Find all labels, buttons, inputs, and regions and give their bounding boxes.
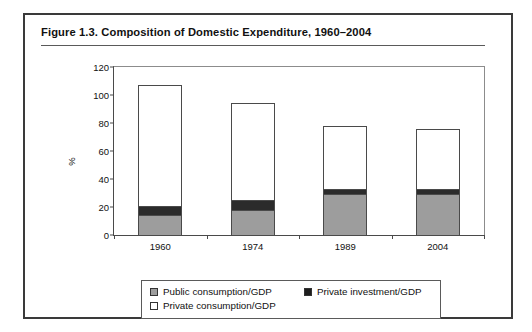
bar-segment: [138, 215, 182, 235]
y-tick-mark: [110, 67, 114, 68]
legend-item-private-investment[interactable]: Private investment/GDP: [304, 285, 422, 299]
y-tick-mark: [110, 95, 114, 96]
x-tick-label-2004: 2004: [427, 241, 448, 252]
title-divider: [41, 45, 485, 46]
bar-segment: [231, 103, 275, 200]
page-title: Figure 1.3. Composition of Domestic Expe…: [41, 26, 485, 38]
bar-segment: [231, 210, 275, 235]
x-tick-mark: [392, 235, 393, 239]
bar-segment: [323, 194, 367, 235]
y-tick-label: 80: [98, 118, 109, 129]
private-consumption-swatch: [150, 302, 158, 310]
y-tick-mark: [110, 123, 114, 124]
x-tick-label-1989: 1989: [335, 241, 356, 252]
y-tick-mark: [110, 179, 114, 180]
legend-row-2: Private consumption/GDP: [150, 299, 432, 313]
bar-segment: [416, 129, 460, 189]
plot-area: 0204060801001201960197419892004: [113, 66, 485, 236]
y-tick-label: 20: [98, 202, 109, 213]
bar-segment: [323, 126, 367, 189]
bar-segment: [138, 206, 182, 216]
x-tick-label-1974: 1974: [242, 241, 263, 252]
y-tick-label: 60: [98, 146, 109, 157]
y-tick-label: 0: [104, 230, 109, 241]
bar-segment: [416, 194, 460, 235]
x-tick-mark: [114, 235, 115, 239]
bar-2004[interactable]: [416, 129, 460, 235]
bar-1989[interactable]: [323, 126, 367, 235]
legend-item-public-consumption[interactable]: Public consumption/GDP: [150, 285, 304, 299]
y-tick-label: 40: [98, 174, 109, 185]
y-tick-mark: [110, 151, 114, 152]
legend-label: Private consumption/GDP: [163, 299, 276, 313]
y-axis-title: %: [66, 157, 77, 165]
x-tick-mark: [207, 235, 208, 239]
bar-1960[interactable]: [138, 85, 182, 235]
y-tick-mark: [110, 207, 114, 208]
x-tick-mark: [299, 235, 300, 239]
legend-item-private-consumption[interactable]: Private consumption/GDP: [150, 299, 304, 313]
public-consumption-swatch: [150, 288, 158, 296]
private-investment-swatch: [304, 288, 312, 296]
legend-label: Private investment/GDP: [317, 285, 422, 299]
legend-label: Public consumption/GDP: [163, 285, 272, 299]
bar-segment: [138, 85, 182, 205]
chart-container: % 0204060801001201960197419892004: [65, 60, 497, 265]
bar-segment: [231, 200, 275, 210]
x-tick-label-1960: 1960: [150, 241, 171, 252]
figure-frame: Figure 1.3. Composition of Domestic Expe…: [23, 13, 513, 319]
chart-legend: Public consumption/GDP Private investmen…: [141, 280, 441, 319]
x-tick-mark: [484, 235, 485, 239]
legend-row-1: Public consumption/GDP Private investmen…: [150, 285, 432, 299]
y-tick-label: 100: [93, 90, 109, 101]
bar-1974[interactable]: [231, 103, 275, 235]
y-tick-label: 120: [93, 62, 109, 73]
